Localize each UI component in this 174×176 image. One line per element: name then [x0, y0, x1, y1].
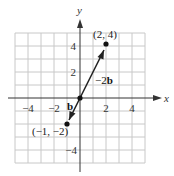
vector-label-b: b — [67, 100, 73, 112]
point-label-neg1-neg2: (−1, −2) — [32, 125, 69, 138]
arrowhead-icon — [69, 111, 76, 120]
y-tick-neg4: −4 — [65, 144, 77, 156]
y-axis-arrow-icon — [77, 19, 83, 28]
x-axis-label: x — [163, 92, 169, 104]
x-axis — [8, 95, 162, 101]
x-tick-neg2: −2 — [48, 102, 60, 114]
coordinate-plane: x y −4 −2 2 4 4 2 −4 (2, 4) (−1, −2) −2b… — [0, 0, 174, 176]
y-axis-label: y — [76, 4, 82, 16]
x-tick-2: 2 — [103, 102, 109, 114]
point-label-2-4: (2, 4) — [93, 28, 117, 41]
x-tick-neg4: −4 — [22, 102, 34, 114]
y-tick-2: 2 — [71, 66, 77, 78]
arrowhead-icon — [98, 50, 105, 60]
x-tick-4: 4 — [129, 102, 135, 114]
origin-point — [77, 95, 82, 100]
point-2-4 — [103, 41, 108, 46]
vector-label-neg2b: −2b — [95, 74, 113, 86]
y-tick-4: 4 — [71, 40, 77, 52]
x-axis-arrow-icon — [153, 95, 162, 101]
